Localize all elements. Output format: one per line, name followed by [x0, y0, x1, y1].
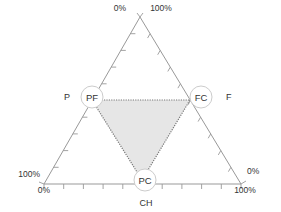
tick-mark: [228, 167, 231, 171]
node-fc: FC: [190, 86, 212, 108]
tick-mark: [241, 181, 246, 184]
axis-label-p: P: [64, 92, 70, 102]
tick-mark: [148, 34, 151, 38]
node-pc: PC: [134, 169, 156, 191]
node-pf-label: PF: [86, 92, 98, 103]
pct-right-top: 0%: [247, 166, 260, 176]
pct-left-bottom: 0%: [38, 185, 51, 195]
tick-mark: [137, 13, 140, 17]
tick-mark: [168, 67, 171, 71]
tick-mark: [178, 84, 181, 88]
tick-mark: [198, 117, 201, 121]
ternary-diagram: PF FC PC P F CH 0% 100% 100% 0% 0% 100%: [0, 0, 281, 212]
shaded-region: [92, 100, 190, 180]
tick-mark: [208, 134, 211, 138]
pct-left-top: 100%: [18, 169, 40, 179]
node-pf: PF: [81, 86, 103, 108]
tick-mark: [39, 182, 44, 184]
node-fc-label: FC: [195, 92, 208, 103]
axis-label-f: F: [226, 92, 232, 102]
tick-mark: [158, 50, 161, 54]
axis-label-ch: CH: [140, 198, 153, 208]
node-pc-label: PC: [138, 175, 151, 186]
pct-top-left: 0%: [114, 3, 127, 13]
pct-top-right: 100%: [150, 3, 172, 13]
tick-mark: [218, 151, 221, 155]
tick-mark: [140, 13, 143, 17]
pct-right-bottom: 100%: [234, 185, 256, 195]
